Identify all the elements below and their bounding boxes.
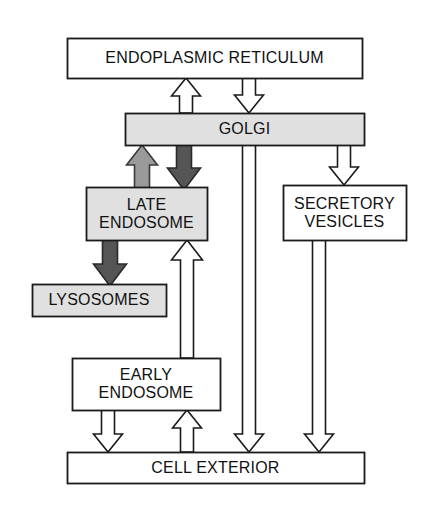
arrow-er-to-golgi — [235, 78, 264, 113]
arrow-early-endosome-to-late-endosome — [172, 240, 203, 358]
diagram-canvas — [0, 0, 428, 512]
node-box-golgi — [126, 114, 365, 146]
membrane-traffic-diagram: ENDOPLASMIC RETICULUMGOLGILATE ENDOSOMES… — [0, 0, 428, 512]
node-box-late-endosome — [87, 188, 208, 241]
node-box-early-endosome — [73, 359, 221, 411]
arrow-early-endosome-to-cell-exterior — [94, 410, 123, 452]
node-box-lysosomes — [33, 285, 167, 317]
arrow-golgi-to-cell-exterior — [235, 145, 264, 452]
arrow-cell-exterior-to-early-endosome — [173, 410, 202, 452]
node-box-cell-exterior — [68, 453, 365, 484]
node-boxes-layer — [33, 39, 407, 484]
arrow-late-endosome-to-golgi — [127, 145, 158, 190]
arrow-golgi-to-er — [172, 78, 201, 113]
arrow-late-endosome-to-lysosomes — [94, 240, 127, 286]
arrow-secretory-vesicles-to-cell-exterior — [305, 240, 334, 452]
node-box-endoplasmic-reticulum — [68, 39, 363, 79]
node-box-secretory-vesicles — [284, 186, 407, 241]
arrow-golgi-to-late-endosome — [168, 145, 201, 190]
arrow-golgi-to-secretory-vesicles — [330, 145, 359, 185]
